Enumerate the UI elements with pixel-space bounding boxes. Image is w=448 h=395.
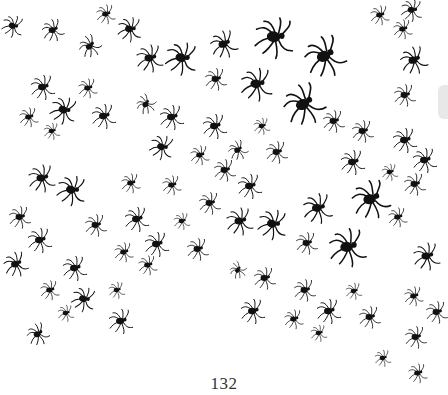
spider-icon <box>41 18 65 43</box>
spider-illustration <box>0 0 448 395</box>
spider-icon <box>209 29 239 60</box>
spider-icon <box>267 142 288 164</box>
spider-icon <box>215 160 236 182</box>
spider-icon <box>79 79 97 98</box>
page-number: 132 <box>0 374 448 394</box>
spider-icon <box>414 243 440 270</box>
spider-icon <box>304 194 333 224</box>
spider-icon <box>31 75 54 99</box>
spider-icon <box>206 69 227 91</box>
spider-icon <box>115 243 133 262</box>
spider-icon <box>311 325 327 341</box>
spider-icon <box>147 132 177 163</box>
spider-icon <box>58 305 74 321</box>
spider-icon <box>145 232 168 256</box>
spider-icon <box>346 283 362 299</box>
spider-icon <box>255 268 276 290</box>
spider-icon <box>10 207 31 229</box>
spider-icon <box>20 108 38 127</box>
spider-icon <box>285 310 303 329</box>
spider-icon <box>200 193 221 215</box>
spider-icon <box>54 172 89 208</box>
spider-icon <box>400 0 424 23</box>
spider-icon <box>174 213 190 229</box>
spider-icon <box>427 302 448 324</box>
spider-icon <box>341 150 364 174</box>
spider-icon <box>69 284 99 315</box>
spider-icon <box>406 327 427 349</box>
spider-icon <box>393 128 416 152</box>
book-page: 132 <box>0 0 448 395</box>
spider-icon <box>133 91 159 117</box>
spider-icon <box>330 229 366 267</box>
spider-icon <box>360 307 381 329</box>
spider-icon <box>413 148 436 172</box>
spider-icon <box>375 350 391 366</box>
spider-icon <box>241 299 264 323</box>
spider-icon <box>188 239 209 261</box>
spider-icon <box>301 32 349 81</box>
spider-icon <box>279 79 329 130</box>
spider-icon <box>29 165 55 192</box>
spider-icon <box>255 206 290 242</box>
spider-icon <box>399 45 429 76</box>
spider-icon <box>353 121 374 143</box>
spider-icon <box>125 207 148 231</box>
spider-icon <box>389 208 407 227</box>
spider-icon <box>295 280 316 302</box>
spider-icon <box>254 118 270 134</box>
spider-icon <box>116 15 143 43</box>
spider-icon <box>317 299 340 323</box>
spider-icon <box>297 233 318 255</box>
spider-icon <box>160 105 183 129</box>
spider-icon <box>122 174 140 193</box>
spider-icon <box>191 146 209 165</box>
spider-icon <box>109 282 125 298</box>
spider-icon <box>109 309 132 333</box>
spider-icon <box>240 67 274 102</box>
spider-icon <box>25 321 52 348</box>
spider-icon <box>76 32 105 61</box>
spider-icon <box>395 85 416 107</box>
spider-icon <box>28 228 51 252</box>
spider-icon <box>137 45 163 72</box>
spider-icon <box>163 176 181 195</box>
spider-icon <box>252 14 297 61</box>
spider-icon <box>238 174 261 198</box>
spider-icon <box>92 104 115 128</box>
spider-icon <box>227 259 249 281</box>
spider-icon <box>47 93 81 127</box>
spider-icon <box>394 20 412 39</box>
spider-icon <box>405 174 426 196</box>
spider-icon <box>405 287 423 306</box>
spider-icon <box>97 5 115 24</box>
spider-icon <box>41 281 59 300</box>
spider-icon <box>226 138 250 162</box>
spider-icon <box>63 256 86 280</box>
spider-icon <box>163 39 202 78</box>
spider-icon <box>139 256 157 275</box>
spider-icon <box>0 13 26 40</box>
spider-icon <box>227 208 253 235</box>
spider-icon <box>44 123 60 139</box>
spider-icon <box>86 215 107 237</box>
spider-icon <box>382 164 398 180</box>
spider-icon <box>2 250 29 278</box>
spider-icon <box>324 111 345 133</box>
page-edge-smudge <box>438 85 448 119</box>
spider-icon <box>203 114 226 138</box>
spider-icon <box>371 6 389 25</box>
spider-icon <box>350 178 392 222</box>
